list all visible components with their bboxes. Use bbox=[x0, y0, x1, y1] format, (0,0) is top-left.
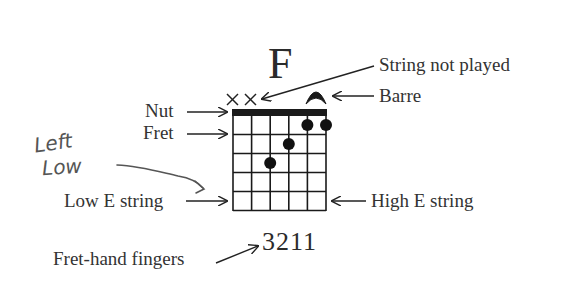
finger-dot bbox=[320, 119, 332, 131]
barre-arc-icon bbox=[306, 92, 326, 104]
nut-bar bbox=[232, 109, 327, 116]
finger-dots bbox=[264, 119, 332, 169]
finger-dot bbox=[301, 119, 313, 131]
finger-dot bbox=[283, 138, 295, 150]
hand-drawn-arrowhead bbox=[195, 181, 204, 193]
hand-drawn-arrow bbox=[117, 165, 203, 188]
finger-dot bbox=[264, 157, 276, 169]
chord-diagram-graphics bbox=[0, 0, 578, 299]
muted-string-x-icon bbox=[227, 94, 256, 105]
arrow-fret-hand-fingers bbox=[216, 246, 258, 263]
annotation-arrows bbox=[186, 66, 374, 263]
handwritten-note-line2: Low bbox=[41, 154, 82, 181]
handwritten-annotation bbox=[117, 165, 204, 193]
